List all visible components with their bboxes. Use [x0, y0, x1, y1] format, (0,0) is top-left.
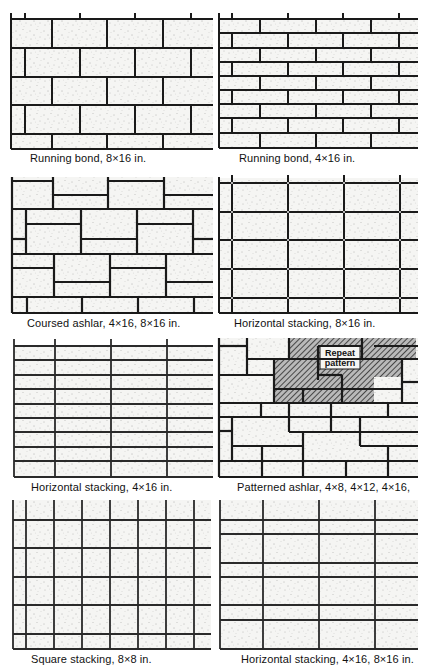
caption-running-bond-4x16: Running bond, 4×16 in. — [239, 152, 355, 164]
square-stacking-8x8-diagram — [0, 495, 215, 655]
panel-square-stacking-8x8: Square stacking, 8×8 in. — [0, 495, 215, 669]
running-bond-8x16-diagram — [0, 0, 215, 150]
callout-repeat: Repeat — [325, 348, 355, 358]
panel-coursed-ashlar: Coursed ashlar, 4×16, 8×16 in. — [0, 165, 215, 335]
caption-patterned-ashlar: Patterned ashlar, 4×8, 4×12, 4×16, — [237, 481, 410, 493]
caption-horizontal-stacking-8x16: Horizontal stacking, 8×16 in. — [234, 317, 375, 329]
panel-horizontal-stacking-8x16: Horizontal stacking, 8×16 in. — [212, 165, 427, 335]
caption-square-stacking-8x8: Square stacking, 8×8 in. — [31, 653, 152, 665]
coursed-ashlar-diagram — [0, 165, 215, 315]
panel-patterned-ashlar: Repeat pattern — [212, 335, 427, 495]
panel-running-bond-8x16: Running bond, 8×16 in. — [0, 0, 215, 170]
panel-horizontal-stacking-4x16: Horizontal stacking, 4×16 in. — [0, 335, 215, 495]
panel-horizontal-stacking-4x16-8x16: Horizontal stacking, 4×16, 8×16 in. — [212, 495, 427, 669]
horizontal-stacking-4x16-diagram — [0, 335, 215, 480]
caption-running-bond-8x16: Running bond, 8×16 in. — [30, 152, 146, 164]
horizontal-stacking-4x16-8x16-diagram — [212, 495, 427, 655]
patterned-ashlar-diagram: Repeat pattern — [212, 335, 427, 480]
panel-running-bond-4x16: Running bond, 4×16 in. — [212, 0, 427, 170]
horizontal-stacking-8x16-diagram — [212, 165, 427, 315]
caption-horizontal-stacking-4x16-8x16: Horizontal stacking, 4×16, 8×16 in. — [241, 653, 414, 665]
caption-horizontal-stacking-4x16: Horizontal stacking, 4×16 in. — [31, 481, 172, 493]
running-bond-4x16-diagram — [212, 0, 427, 150]
caption-coursed-ashlar: Coursed ashlar, 4×16, 8×16 in. — [27, 317, 180, 329]
